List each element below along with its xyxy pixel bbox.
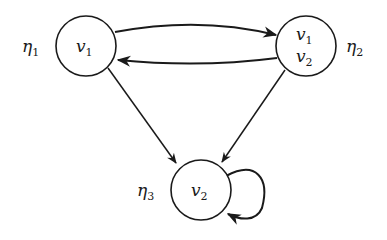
edge-eta2-to-eta1 xyxy=(118,58,277,64)
node-eta1: v1 η1 xyxy=(22,16,116,76)
graph-canvas: v1 η1 v1 v2 η2 v2 η3 xyxy=(0,0,387,240)
edge-eta3-self-loop xyxy=(226,170,264,219)
node-eta3: v2 η3 xyxy=(137,160,231,220)
node-label-eta3: η3 xyxy=(137,180,154,203)
edge-eta1-to-eta3 xyxy=(108,68,176,163)
node-label-eta1: η1 xyxy=(22,36,39,59)
edge-eta1-to-eta2 xyxy=(115,25,276,35)
edge-eta2-to-eta3 xyxy=(222,70,285,162)
node-label-eta2: η2 xyxy=(346,36,363,59)
node-eta2: v1 v2 η2 xyxy=(276,16,363,76)
